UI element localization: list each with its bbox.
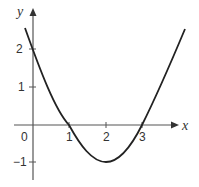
y-axis-label: y — [15, 4, 24, 19]
x-axis-arrow-icon — [171, 122, 179, 129]
x-tick-label-1: 1 — [66, 130, 73, 144]
x-tick-label-2: 2 — [103, 130, 110, 144]
chart: y x 0 1 2 3 2 1 −1 — [0, 0, 199, 187]
y-tick-label-2: 2 — [16, 42, 23, 56]
y-axis-arrow-icon — [30, 8, 37, 16]
y-tick-label-m1: −1 — [13, 155, 27, 169]
origin-label: 0 — [21, 130, 28, 144]
x-axis-label: x — [181, 118, 189, 133]
y-tick-label-1: 1 — [18, 80, 25, 94]
x-tick-label-3: 3 — [139, 130, 146, 144]
